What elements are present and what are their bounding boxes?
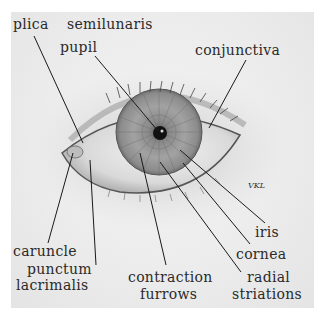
label-lacrimalis: lacrimalis <box>16 278 89 292</box>
label-cornea: cornea <box>236 247 286 261</box>
label-striations: striations <box>232 287 302 301</box>
label-conjunctiva: conjunctiva <box>195 43 280 57</box>
label-radial: radial <box>247 270 290 284</box>
label-caruncle: caruncle <box>13 244 77 258</box>
artist-signature: VKL <box>248 181 265 190</box>
label-punctum: punctum <box>27 262 92 276</box>
label-furrows: furrows <box>140 287 197 301</box>
label-plica: plica <box>13 17 49 31</box>
label-contraction: contraction <box>128 270 213 284</box>
label-pupil: pupil <box>60 40 97 54</box>
label-semilunaris: semilunaris <box>67 17 153 31</box>
label-iris: iris <box>255 225 279 239</box>
